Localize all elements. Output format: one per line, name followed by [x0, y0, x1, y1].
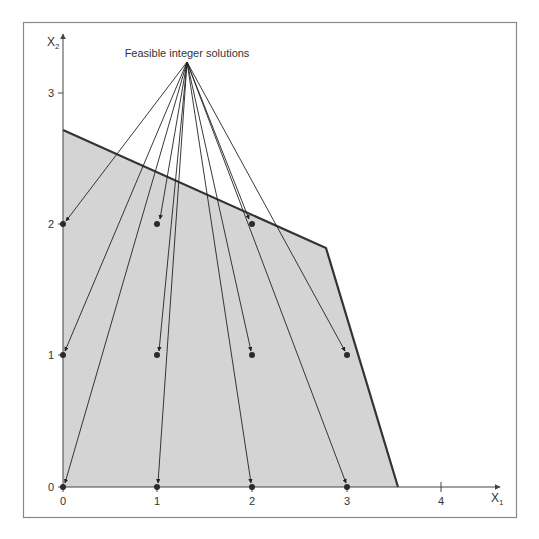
feasible-region	[63, 130, 398, 487]
x-tick-0: 0	[60, 495, 66, 507]
point-0-0	[60, 484, 66, 490]
point-1-2	[154, 221, 160, 227]
point-0-1	[60, 352, 66, 358]
x-tick-1: 1	[154, 495, 160, 507]
point-1-1	[154, 352, 160, 358]
point-1-0	[154, 484, 160, 490]
lp-diagram: X2 X1 0 1 2 3 4 0 1 2 3 Feasible integer…	[0, 0, 539, 539]
x-tick-2: 2	[249, 495, 255, 507]
x-tick-3: 3	[344, 495, 350, 507]
y-tick-0: 0	[48, 481, 54, 493]
x-axis-label: X1	[491, 491, 504, 507]
point-3-0	[344, 484, 350, 490]
annotation-label: Feasible integer solutions	[125, 47, 250, 59]
point-3-1	[344, 352, 350, 358]
y-tick-1: 1	[48, 349, 54, 361]
y-tick-3: 3	[48, 87, 54, 99]
point-2-1	[249, 352, 255, 358]
y-ticks	[58, 93, 63, 487]
point-0-2	[60, 221, 66, 227]
point-2-0	[249, 484, 255, 490]
y-tick-2: 2	[48, 218, 54, 230]
point-2-2	[249, 221, 255, 227]
y-axis-label: X2	[47, 35, 60, 51]
x-tick-4: 4	[438, 495, 444, 507]
